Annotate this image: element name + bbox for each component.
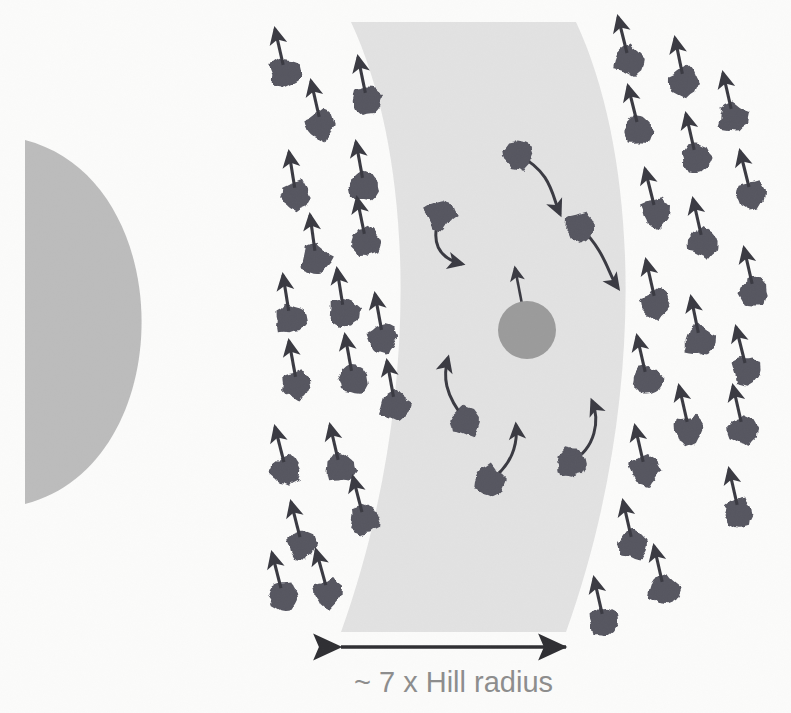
figure-root: ~ 7 x Hill radius [0,0,791,713]
paper-grain-overlay [0,0,791,713]
diagram-canvas: ~ 7 x Hill radius [0,0,791,713]
